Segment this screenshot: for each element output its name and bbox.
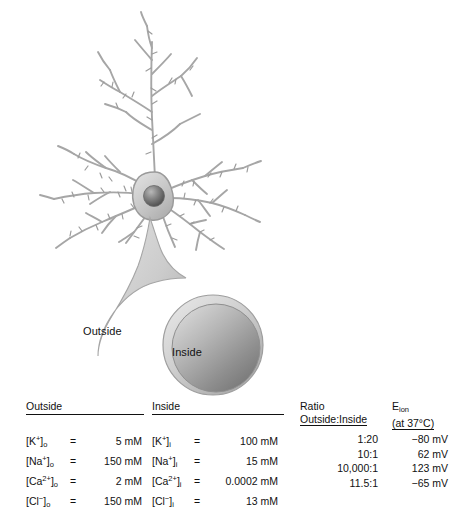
equals-sign: = (68, 474, 78, 489)
table-row: [Ca2+]o=2 mM (26, 472, 154, 492)
outside-value: 150 mM (78, 494, 142, 509)
ion-formula-outside: [Ca2+]o (26, 472, 68, 492)
ion-formula-inside: [Na+]i (152, 452, 192, 472)
outside-value: 150 mM (78, 454, 142, 469)
column-header-outside: Outside (26, 400, 154, 415)
inside-rows: [K+]i=100 mM [Na+]i=15 mM [Ca2+]i=0.0002… (152, 432, 292, 512)
column-header-eion-symbol: Eion (392, 400, 456, 417)
column-header-ratio-line2: Outside:Inside (300, 414, 367, 427)
table-row: [Na+]i=15 mM (152, 452, 292, 472)
equals-sign: = (192, 434, 202, 449)
inside-value: 0.0002 mM (202, 474, 278, 489)
outside-value: 5 mM (78, 434, 142, 449)
outside-label: Outside (83, 325, 122, 337)
ratio-value: 1:20 (300, 432, 378, 447)
ion-formula-inside: [Cl−]i (152, 492, 192, 512)
table-row: [Na+]o=150 mM (26, 452, 154, 472)
eion-value: 123 mV (392, 461, 448, 476)
equals-sign: = (192, 474, 202, 489)
inside-value: 100 mM (202, 434, 278, 449)
inside-value: 13 mM (202, 494, 278, 509)
column-header-eion: Eion (at 37°C) (392, 400, 456, 430)
column-header-ratio: Ratio Outside:Inside (300, 400, 384, 426)
equals-sign: = (68, 434, 78, 449)
column-inside: Inside [K+]i=100 mM [Na+]i=15 mM [Ca2+]i… (152, 400, 292, 415)
ion-formula-inside: [K+]i (152, 432, 192, 452)
eion-value: −80 mV (392, 432, 448, 447)
equals-sign: = (68, 494, 78, 509)
equals-sign: = (192, 494, 202, 509)
column-outside: Outside [K+]o=5 mM [Na+]o=150 mM [Ca2+]o… (26, 400, 154, 415)
ion-concentration-table: Outside [K+]o=5 mM [Na+]o=150 mM [Ca2+]o… (0, 400, 458, 520)
ion-formula-outside: [Na+]o (26, 452, 68, 472)
column-header-inside: Inside (152, 400, 292, 415)
figure-root: Outside Inside Outside [K+]o=5 mM [Na+]o… (0, 0, 458, 520)
table-row: [Cl−]o=150 mM (26, 492, 154, 512)
ion-formula-outside: [K+]o (26, 432, 68, 452)
column-header-eion-condition: (at 37°C) (392, 418, 434, 431)
ratio-value: 11.5:1 (300, 476, 378, 491)
ion-formula-outside: [Cl−]o (26, 492, 68, 512)
column-header-inside-text: Inside (152, 400, 180, 412)
ratio-value: 10,000:1 (300, 461, 378, 476)
outside-value: 2 mM (78, 474, 142, 489)
column-ratio: Ratio Outside:Inside 1:20 10:1 10,000:1 … (300, 400, 384, 426)
table-row: [Cl−]i=13 mM (152, 492, 292, 512)
ratio-value: 10:1 (300, 447, 378, 462)
table-row: [Ca2+]i=0.0002 mM (152, 472, 292, 492)
table-row: [K+]i=100 mM (152, 432, 292, 452)
eion-rows: −80 mV 62 mV 123 mV −65 mV (392, 432, 456, 490)
table-row: [K+]o=5 mM (26, 432, 154, 452)
inside-label: Inside (172, 346, 202, 358)
column-header-ratio-line1: Ratio (300, 400, 384, 413)
ion-formula-inside: [Ca2+]i (152, 472, 192, 492)
eion-value: −65 mV (392, 476, 448, 491)
column-header-outside-rule (26, 414, 144, 415)
column-eion: Eion (at 37°C) −80 mV 62 mV 123 mV −65 m… (392, 400, 456, 430)
nucleus (144, 186, 165, 207)
column-header-outside-text: Outside (26, 400, 62, 412)
equals-sign: = (192, 454, 202, 469)
equals-sign: = (68, 454, 78, 469)
column-header-inside-rule (152, 414, 284, 415)
ratio-rows: 1:20 10:1 10,000:1 11.5:1 (300, 432, 384, 490)
inside-value: 15 mM (202, 454, 278, 469)
outside-rows: [K+]o=5 mM [Na+]o=150 mM [Ca2+]o=2 mM [C… (26, 432, 154, 512)
eion-value: 62 mV (392, 447, 448, 462)
